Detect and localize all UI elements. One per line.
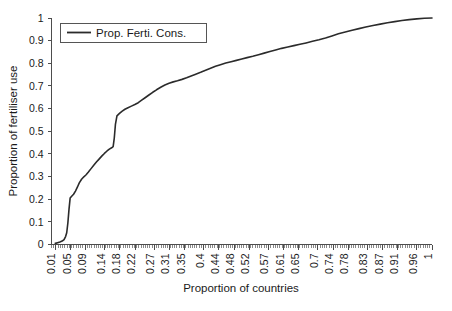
- x-tick-label: 0.65: [289, 253, 301, 274]
- x-tick-label: 0.35: [175, 253, 187, 274]
- legend-label: Prop. Ferti. Cons.: [96, 27, 186, 39]
- y-axis-title: Proportion of fertiliser use: [7, 65, 19, 196]
- x-tick-label: 0.4: [194, 253, 206, 268]
- x-axis-title: Proportion of countries: [183, 282, 299, 294]
- cumulative-distribution-chart: 00.10.20.30.40.50.60.70.80.91 0.010.050.…: [0, 0, 452, 311]
- y-tick-label: 0: [38, 238, 44, 250]
- x-tick-label: 0.44: [209, 253, 221, 274]
- x-tick-label: 0.48: [224, 253, 236, 274]
- legend: Prop. Ferti. Cons.: [60, 23, 206, 42]
- y-tick-label: 0.3: [29, 170, 44, 182]
- x-tick-label: 0.91: [388, 253, 400, 274]
- x-tick-label: 0.96: [407, 253, 419, 274]
- x-tick-label: 1: [422, 253, 434, 259]
- x-tick-label: 0.61: [274, 253, 286, 274]
- y-tick-label: 0.1: [29, 216, 44, 228]
- x-tick-label: 0.18: [110, 253, 122, 274]
- x-tick-label: 0.74: [323, 253, 335, 274]
- y-tick-label: 0.5: [29, 125, 44, 137]
- x-tick-label: 0.78: [338, 253, 350, 274]
- x-tick-label: 0.7: [308, 253, 320, 268]
- x-tick-label: 0.31: [159, 253, 171, 274]
- y-tick-label: 0.8: [29, 57, 44, 69]
- x-tick-label: 0.27: [144, 253, 156, 274]
- x-tick-label: 0.01: [45, 253, 57, 274]
- chart-container: 00.10.20.30.40.50.60.70.80.91 0.010.050.…: [0, 0, 452, 311]
- y-tick-label: 1: [38, 12, 44, 24]
- y-tick-label: 0.2: [29, 193, 44, 205]
- x-tick-label: 0.22: [125, 253, 137, 274]
- x-tick-label: 0.57: [258, 253, 270, 274]
- x-tick-label: 0.83: [357, 253, 369, 274]
- x-tick-label: 0.05: [61, 253, 73, 274]
- y-tick-label: 0.6: [29, 102, 44, 114]
- y-tick-label: 0.7: [29, 80, 44, 92]
- y-tick-label: 0.9: [29, 34, 44, 46]
- x-tick-label: 0.52: [239, 253, 251, 274]
- y-tick-label: 0.4: [29, 148, 44, 160]
- x-tick-label: 0.14: [95, 253, 107, 274]
- x-tick-label: 0.09: [76, 253, 88, 274]
- x-tick-label: 0.87: [373, 253, 385, 274]
- x-axis-tick-labels: 0.010.050.090.140.180.220.270.310.350.40…: [45, 253, 434, 274]
